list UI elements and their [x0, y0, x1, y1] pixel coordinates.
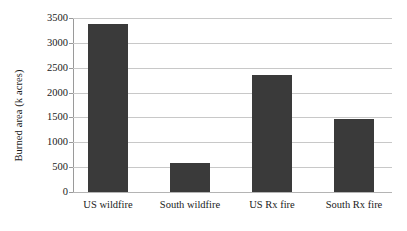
- y-axis-tick: [69, 43, 73, 44]
- bar: [252, 75, 292, 192]
- y-axis-tick-label: 3000: [34, 38, 68, 49]
- y-axis-tick-label: 2500: [34, 63, 68, 74]
- y-axis-tick: [69, 192, 73, 193]
- y-axis-tick: [69, 167, 73, 168]
- bar: [88, 24, 128, 192]
- y-axis-tick-label: 1500: [34, 112, 68, 123]
- bar: [334, 119, 374, 192]
- y-axis-tick: [69, 93, 73, 94]
- y-axis-tick-labels: 0500100015002000250030003500: [28, 0, 68, 231]
- gridline: [73, 192, 392, 193]
- bar: [170, 163, 210, 192]
- x-axis-tick-label: South Rx fire: [299, 199, 407, 211]
- y-axis-tick-label: 3500: [34, 13, 68, 24]
- y-axis-tick: [69, 117, 73, 118]
- bar-chart: Burned area (k acres) 050010001500200025…: [0, 0, 407, 231]
- y-axis-tick-label: 1000: [34, 137, 68, 148]
- y-axis-tick-label: 2000: [34, 88, 68, 99]
- y-axis-tick: [69, 18, 73, 19]
- y-axis-tick-label: 0: [34, 187, 68, 198]
- plot-area: [73, 18, 392, 192]
- gridline: [73, 18, 392, 19]
- y-axis-tick-label: 500: [34, 162, 68, 173]
- y-axis-tick: [69, 68, 73, 69]
- x-axis-tick-labels: US wildfireSouth wildfireUS Rx fireSouth…: [73, 199, 407, 225]
- y-axis-tick: [69, 142, 73, 143]
